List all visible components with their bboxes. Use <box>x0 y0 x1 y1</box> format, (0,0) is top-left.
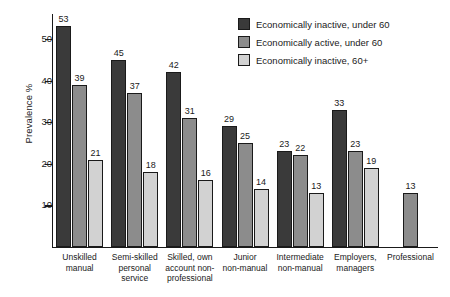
legend-swatch-icon <box>238 36 250 48</box>
legend-item[interactable]: Economically inactive, 60+ <box>238 54 390 66</box>
y-axis-tick-label: 50 <box>32 33 52 44</box>
y-axis-tick-label: 10 <box>32 199 52 210</box>
bar-value-label: 13 <box>311 181 321 191</box>
bar[interactable]: 14 <box>254 189 269 247</box>
legend-item[interactable]: Economically active, under 60 <box>238 36 390 48</box>
legend-swatch-icon <box>238 18 250 30</box>
x-axis-category-label: Professional <box>383 252 438 263</box>
bar[interactable]: 13 <box>403 193 418 247</box>
x-axis-category-label: Skilled, ownaccount non-professional <box>162 252 217 284</box>
bar[interactable]: 45 <box>111 60 126 247</box>
bar[interactable]: 22 <box>293 155 308 247</box>
bar[interactable]: 25 <box>238 143 253 247</box>
bar-value-label: 18 <box>146 160 156 170</box>
y-axis-tick-label: 40 <box>32 75 52 86</box>
bar-value-label: 53 <box>59 14 69 24</box>
bar[interactable]: 19 <box>364 168 379 247</box>
y-axis-title: Prevalence % <box>23 34 34 194</box>
bar[interactable]: 39 <box>72 85 87 247</box>
bar-group: 13 <box>403 14 418 247</box>
bar-value-label: 45 <box>114 48 124 58</box>
legend: Economically inactive, under 60Economica… <box>238 18 390 72</box>
legend-label: Economically inactive, 60+ <box>256 55 368 66</box>
bar-group: 423116 <box>166 14 213 247</box>
legend-item[interactable]: Economically inactive, under 60 <box>238 18 390 30</box>
bar[interactable]: 16 <box>198 180 213 247</box>
x-axis-category-label: Employers,managers <box>328 252 383 273</box>
bar-value-label: 16 <box>201 168 211 178</box>
bar-value-label: 21 <box>91 148 101 158</box>
bar-chart: Prevalence % 1020304050 5339214537184231… <box>0 0 450 297</box>
bar-value-label: 13 <box>405 181 415 191</box>
bar[interactable]: 42 <box>166 72 181 247</box>
bar[interactable]: 29 <box>222 126 237 247</box>
y-axis-tick-label: 20 <box>32 158 52 169</box>
x-axis-category-label: Intermediatenon-manual <box>273 252 328 273</box>
bar[interactable]: 23 <box>277 151 292 247</box>
bar-group: 533921 <box>56 14 103 247</box>
bar[interactable]: 23 <box>348 151 363 247</box>
bar[interactable]: 53 <box>56 26 71 247</box>
bar-value-label: 29 <box>224 114 234 124</box>
bar[interactable]: 31 <box>182 118 197 247</box>
x-axis-category-label: Unskilledmanual <box>52 252 107 273</box>
bar[interactable]: 18 <box>143 172 158 247</box>
bar-value-label: 39 <box>75 73 85 83</box>
bar-value-label: 37 <box>130 81 140 91</box>
x-axis-category-label: Semi-skilledpersonalservice <box>107 252 162 284</box>
bar[interactable]: 13 <box>309 193 324 247</box>
bar-value-label: 42 <box>169 60 179 70</box>
bar[interactable]: 33 <box>332 110 347 247</box>
bar-value-label: 14 <box>256 177 266 187</box>
legend-label: Economically inactive, under 60 <box>256 19 390 30</box>
bar-value-label: 22 <box>295 143 305 153</box>
bar-value-label: 23 <box>279 139 289 149</box>
bar-value-label: 19 <box>366 156 376 166</box>
y-axis-tick-label: 30 <box>32 116 52 127</box>
legend-swatch-icon <box>238 54 250 66</box>
bar[interactable]: 21 <box>88 160 103 247</box>
x-axis-category-label: Juniornon-manual <box>217 252 272 273</box>
bar-value-label: 31 <box>185 106 195 116</box>
bar-group: 453718 <box>111 14 158 247</box>
bar[interactable]: 37 <box>127 93 142 247</box>
bar-value-label: 33 <box>334 98 344 108</box>
bar-value-label: 23 <box>350 139 360 149</box>
bar-value-label: 25 <box>240 131 250 141</box>
legend-label: Economically active, under 60 <box>256 37 382 48</box>
